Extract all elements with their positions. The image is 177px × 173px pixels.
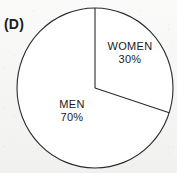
slice-label-men: MEN 70% [44,98,100,124]
pie-chart-figure: (D) WOMEN 30% MEN 70% [0,0,177,173]
panel-label: (D) [4,16,24,32]
slice-label-women: WOMEN 30% [100,40,160,66]
slice-label-women-name: WOMEN [100,40,160,53]
slice-label-men-name: MEN [44,98,100,111]
slice-label-women-value: 30% [100,53,160,66]
slice-label-men-value: 70% [44,111,100,124]
pie-chart-graphic [0,0,177,173]
